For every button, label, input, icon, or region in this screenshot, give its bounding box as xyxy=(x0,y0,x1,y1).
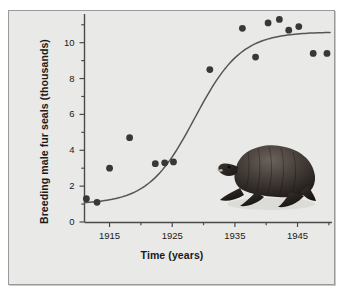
scatter-data-points xyxy=(83,16,330,206)
data-point xyxy=(206,66,213,73)
y-axis-tick-label: 10 xyxy=(53,37,75,48)
x-axis-tick-label: 1915 xyxy=(90,230,130,241)
data-point xyxy=(239,25,246,32)
y-axis-tick-label: 2 xyxy=(53,180,75,191)
y-axis-tick-label: 8 xyxy=(53,73,75,84)
data-point xyxy=(310,50,317,57)
y-axis-tick-label: 4 xyxy=(53,144,75,155)
chart-axes xyxy=(85,14,333,223)
y-axis-tick-label: 0 xyxy=(53,216,75,227)
x-axis-tick-label: 1945 xyxy=(278,230,318,241)
data-point xyxy=(161,159,168,166)
data-point xyxy=(170,159,177,166)
figure-container: Time (years) Breeding male fur seals (th… xyxy=(0,0,344,297)
data-point xyxy=(285,27,292,34)
data-point xyxy=(94,199,101,206)
data-point xyxy=(152,160,159,167)
x-axis-title: Time (years) xyxy=(0,249,344,261)
data-point xyxy=(106,165,113,172)
data-point xyxy=(126,134,133,141)
y-axis-ticks xyxy=(80,25,85,222)
data-point xyxy=(295,23,302,30)
logistic-fit-curve xyxy=(85,32,331,202)
data-point xyxy=(265,20,272,27)
x-axis-tick-label: 1925 xyxy=(152,230,192,241)
x-axis-tick-label: 1935 xyxy=(215,230,255,241)
data-point xyxy=(252,54,259,61)
y-axis-tick-label: 6 xyxy=(53,108,75,119)
data-point xyxy=(276,16,283,23)
data-point xyxy=(324,50,331,57)
data-point xyxy=(83,195,90,202)
y-axis-title: Breeding male fur seals (thousands) xyxy=(38,39,50,224)
